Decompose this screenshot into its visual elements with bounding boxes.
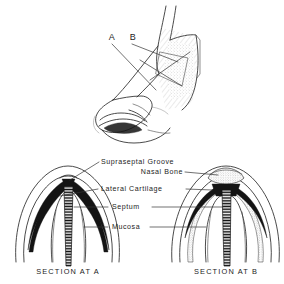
- caption-section-a: SECTION AT A: [36, 267, 100, 276]
- annotation-mucosa: Mucosa: [112, 223, 140, 231]
- anatomical-figure: A B: [0, 0, 284, 284]
- nasal-bone-b: [208, 168, 244, 184]
- section-label-a: A: [109, 32, 116, 42]
- section-b-drawing: [172, 166, 280, 266]
- section-a-drawing: [16, 166, 120, 266]
- septum-a: [64, 186, 73, 266]
- septum-b: [222, 190, 231, 266]
- caption-section-b: SECTION AT B: [194, 267, 258, 276]
- annotation-supraseptal-groove: Supraseptal Groove: [101, 158, 174, 166]
- figure-canvas: A B: [0, 0, 284, 284]
- section-label-b: B: [130, 32, 137, 42]
- annotation-nasal-bone: Nasal Bone: [141, 168, 183, 176]
- annotation-lateral-cartilage: Lateral Cartilage: [101, 185, 162, 193]
- lateral-nose-profile: A B: [93, 6, 200, 143]
- annotation-septum: Septum: [112, 203, 140, 211]
